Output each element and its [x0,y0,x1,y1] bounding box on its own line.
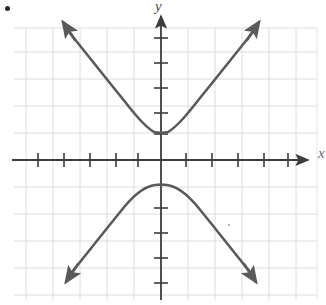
scan-artifact-speck [228,224,230,226]
y-axis-label: y [155,0,162,15]
grid-lines [14,28,317,300]
x-axis [12,153,308,167]
x-axis-label: x [318,145,325,162]
hyperbola-graph [0,0,326,305]
y-axis [154,16,168,300]
graph-screenshot: y x [0,0,326,305]
